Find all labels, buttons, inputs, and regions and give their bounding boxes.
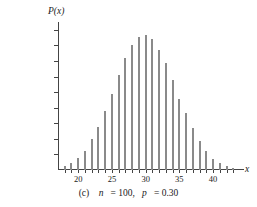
bar xyxy=(77,158,79,170)
bar xyxy=(131,45,133,170)
bar xyxy=(145,35,147,170)
bar xyxy=(205,151,207,170)
x-axis-tick-label: 40 xyxy=(209,174,218,184)
bar xyxy=(104,111,106,170)
bar xyxy=(118,75,120,170)
binomial-distribution-figure: P(x) 0.010.020.030.040.050.060.070.080.0… xyxy=(0,0,257,207)
bar xyxy=(199,141,201,170)
x-axis-title: x xyxy=(245,164,249,174)
bar xyxy=(219,163,221,170)
bar xyxy=(91,139,93,170)
bar xyxy=(138,37,140,170)
y-axis-tick xyxy=(54,77,58,78)
caption-index: (c) xyxy=(79,188,90,198)
bar xyxy=(158,50,160,170)
bar xyxy=(212,159,214,170)
y-axis-tick xyxy=(54,123,58,124)
bar xyxy=(172,80,174,170)
plot-area xyxy=(58,22,240,170)
x-axis-tick-label: 35 xyxy=(175,174,184,184)
y-axis-tick xyxy=(54,61,58,62)
y-axis-tick xyxy=(54,108,58,109)
bar xyxy=(165,63,167,170)
caption-n-value: = 100, xyxy=(111,188,135,198)
bar xyxy=(185,113,187,170)
x-axis-tick-label: 25 xyxy=(108,174,117,184)
y-axis-tick xyxy=(54,92,58,93)
caption-n-symbol: n xyxy=(99,188,104,198)
caption-p-value: = 0.30 xyxy=(154,188,178,198)
bar xyxy=(151,39,153,170)
figure-caption: (c) n = 100, p = 0.30 xyxy=(0,188,257,198)
x-axis-tick-label: 30 xyxy=(141,174,150,184)
x-axis-tick-label: 20 xyxy=(74,174,83,184)
y-axis-tick xyxy=(54,45,58,46)
bar xyxy=(124,58,126,170)
bar xyxy=(192,128,194,170)
bar xyxy=(84,151,86,170)
y-axis-title: P(x) xyxy=(48,6,64,16)
bar xyxy=(97,127,99,170)
y-axis-tick xyxy=(54,30,58,31)
bar xyxy=(70,163,72,170)
y-axis-tick xyxy=(54,139,58,140)
y-axis-tick xyxy=(54,154,58,155)
bar xyxy=(111,94,113,170)
x-axis-labels: 2025303540 xyxy=(58,170,244,186)
bar xyxy=(178,99,180,171)
caption-p-symbol: p xyxy=(142,188,147,198)
